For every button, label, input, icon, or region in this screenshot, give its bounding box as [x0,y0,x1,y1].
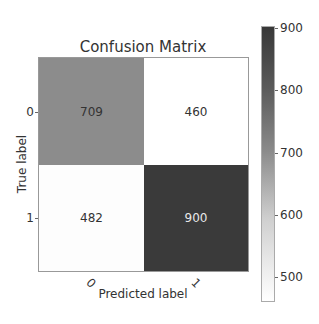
colorbar-tickmark-800 [275,90,278,91]
colorbar-tickmark-600 [275,215,278,216]
colorbar-tickmark-500 [275,277,278,278]
colorbar-tick-600: 600 [280,208,303,222]
colorbar-tick-500: 500 [280,270,303,284]
x-tick-1: 1 [188,275,203,290]
cell-1-0: 482 [39,165,144,271]
cell-1-1: 900 [144,165,248,271]
x-tick-0: 0 [83,275,98,290]
y-tick-0: 0 [26,105,34,119]
colorbar-tick-800: 800 [280,83,303,97]
colorbar-tick-700: 700 [280,146,303,160]
cell-value: 709 [80,105,103,119]
x-axis-label: Predicted label [98,287,187,301]
cell-value: 900 [185,211,208,225]
colorbar-tickmark-700 [275,153,278,154]
colorbar-tickmark-900 [275,28,278,29]
cell-value: 482 [80,211,103,225]
colorbar [261,26,275,302]
y-axis-label: True label [15,135,29,193]
colorbar-tick-900: 900 [280,21,303,35]
cell-0-1: 460 [144,58,248,165]
cell-0-0: 709 [39,58,144,165]
y-tickmark-0 [35,112,38,113]
chart-title: Confusion Matrix [80,38,207,56]
y-tickmark-1 [35,218,38,219]
cell-value: 460 [185,105,208,119]
y-tick-1: 1 [26,211,34,225]
confusion-matrix: 709 460 482 900 [38,57,249,272]
